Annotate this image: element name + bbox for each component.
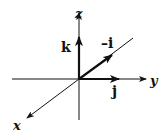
z-axis-label: z bbox=[74, 6, 83, 21]
y-axis-label: y bbox=[149, 73, 159, 88]
k-vector-label: k bbox=[61, 39, 71, 55]
coordinate-axes-diagram: z y x k –i j bbox=[0, 0, 165, 136]
j-vector-label: j bbox=[110, 83, 117, 99]
neg-i-vector-arrow bbox=[79, 55, 112, 79]
x-axis-label: x bbox=[12, 118, 21, 133]
neg-i-vector-label: –i bbox=[101, 35, 113, 51]
x-axis-line bbox=[27, 79, 79, 118]
